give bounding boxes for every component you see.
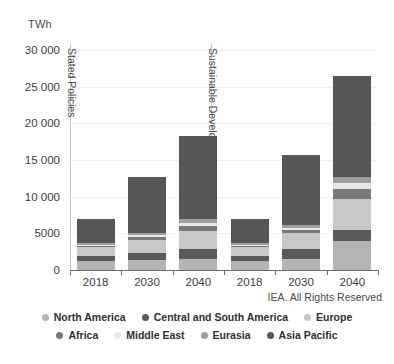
x-axis-tick <box>173 270 174 275</box>
x-axis-tick-label: 2018 <box>225 276 275 288</box>
bar-2018-stated-policies[interactable] <box>77 0 115 270</box>
bar-segment <box>231 247 269 256</box>
y-axis-tick-label: 30 000 <box>14 44 60 56</box>
y-axis-tick-label: 25 000 <box>14 81 60 93</box>
bar-segment <box>77 219 115 243</box>
legend-swatch-icon <box>114 332 121 339</box>
bar-segment <box>333 177 371 184</box>
bar-segment <box>282 259 320 270</box>
legend-label: North America <box>54 311 126 323</box>
legend-item[interactable]: Asia Pacific <box>267 329 338 341</box>
legend-item[interactable]: Europe <box>304 311 352 323</box>
legend-swatch-icon <box>304 314 311 321</box>
x-axis-tick <box>275 270 276 275</box>
x-axis-tick <box>327 270 328 275</box>
bar-segment <box>282 233 320 249</box>
legend-item[interactable]: Middle East <box>114 329 184 341</box>
bar-2030-sustainable-development[interactable] <box>282 0 320 270</box>
y-axis-tick-label: 15 000 <box>14 154 60 166</box>
bar-segment <box>179 136 217 220</box>
x-axis-tick-label: 2030 <box>276 276 326 288</box>
bar-segment <box>77 247 115 256</box>
legend-label: Central and South America <box>154 311 288 323</box>
chart-root: TWh 0500010 00015 00020 00025 00030 000 … <box>0 0 394 364</box>
x-axis-tick <box>224 270 225 275</box>
legend-label: Africa <box>68 329 98 341</box>
bar-segment <box>77 261 115 270</box>
gridline <box>70 50 378 51</box>
bar-segment <box>282 249 320 259</box>
x-axis-tick <box>378 270 379 275</box>
legend-item[interactable]: North America <box>42 311 126 323</box>
credit-text: IEA. All Rights Reserved <box>268 291 382 303</box>
legend-label: Eurasia <box>213 329 251 341</box>
bar-segment <box>179 259 217 270</box>
legend-swatch-icon <box>42 314 49 321</box>
bar-segment <box>128 177 166 233</box>
bar-segment <box>333 199 371 231</box>
x-axis-tick-label: 2040 <box>173 276 223 288</box>
x-axis-tick-label: 2030 <box>122 276 172 288</box>
bar-segment <box>333 230 371 241</box>
legend-label: Asia Pacific <box>279 329 338 341</box>
bar-segment <box>282 155 320 225</box>
gridline <box>70 197 378 198</box>
bar-2030-stated-policies[interactable] <box>128 0 166 270</box>
legend-row-2: AfricaMiddle EastEurasiaAsia Pacific <box>56 329 337 341</box>
x-axis-tick <box>70 270 71 275</box>
x-axis-tick-label: 2018 <box>71 276 121 288</box>
x-axis-tick <box>121 270 122 275</box>
legend-item[interactable]: Eurasia <box>201 329 251 341</box>
y-axis-tick-label: 10 000 <box>14 191 60 203</box>
bar-segment <box>333 241 371 270</box>
bar-2018-sustainable-development[interactable] <box>231 0 269 270</box>
y-axis-tick-label: 0 <box>14 264 60 276</box>
bar-segment <box>128 240 166 253</box>
gridline <box>70 233 378 234</box>
gridline <box>70 160 378 161</box>
legend-swatch-icon <box>267 332 274 339</box>
bar-segment <box>179 249 217 259</box>
bar-segment <box>231 219 269 243</box>
bar-segment <box>179 231 217 249</box>
legend: North AmericaCentral and South AmericaEu… <box>0 311 394 341</box>
bar-segment <box>333 76 371 177</box>
legend-swatch-icon <box>56 332 63 339</box>
legend-item[interactable]: Africa <box>56 329 98 341</box>
bar-segment <box>128 253 166 260</box>
bar-2040-stated-policies[interactable] <box>179 0 217 270</box>
gridline <box>70 123 378 124</box>
gridline <box>70 87 378 88</box>
bar-segment <box>333 189 371 199</box>
x-axis-tick-label: 2040 <box>327 276 377 288</box>
y-axis-unit-label: TWh <box>28 18 52 30</box>
bar-segment <box>128 260 166 270</box>
bar-2040-sustainable-development[interactable] <box>333 0 371 270</box>
legend-row-1: North AmericaCentral and South AmericaEu… <box>42 311 353 323</box>
bar-segment <box>231 261 269 270</box>
y-axis-tick-label: 5000 <box>14 227 60 239</box>
legend-swatch-icon <box>142 314 149 321</box>
legend-swatch-icon <box>201 332 208 339</box>
legend-label: Middle East <box>126 329 184 341</box>
legend-label: Europe <box>316 311 352 323</box>
legend-item[interactable]: Central and South America <box>142 311 288 323</box>
y-axis-tick-label: 20 000 <box>14 117 60 129</box>
